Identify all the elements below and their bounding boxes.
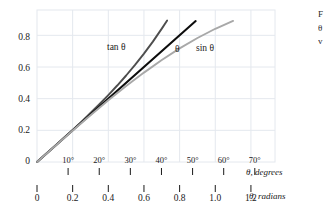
caption-line-3: v <box>318 35 331 49</box>
x-tick-label-radians-0-2: 0.2 <box>58 194 88 204</box>
x-axis-label-degrees: θ, degrees <box>246 168 283 177</box>
chart-canvas <box>0 0 331 220</box>
y-tick-label-0-4: 0.4 <box>4 95 30 105</box>
x-tick-label-degrees-50: 50° <box>179 156 207 165</box>
curve-label-sin-theta: sin θ <box>196 44 214 54</box>
x-tick-label-degrees-20: 20° <box>85 156 113 165</box>
x-tick-label-degrees-70: 70° <box>241 156 269 165</box>
y-tick-label-0-2: 0.2 <box>4 126 30 136</box>
y-tick-label-0-6: 0.6 <box>4 64 30 74</box>
x-tick-label-radians-0-4: 0.4 <box>93 194 123 204</box>
curve-label-tan-theta: tan θ <box>107 43 126 53</box>
tick-marks <box>37 168 255 192</box>
x-tick-label-degrees-60: 60° <box>210 156 238 165</box>
caption-line-2: θ <box>318 22 331 36</box>
gridlines <box>37 10 275 162</box>
caption-text: F θ v <box>318 8 331 49</box>
caption-line-1: F <box>318 8 331 22</box>
curve-label-theta: θ <box>175 45 180 55</box>
x-tick-label-degrees-10: 10° <box>54 156 82 165</box>
x-tick-label-radians-0-8: 0.8 <box>165 194 195 204</box>
x-tick-label-degrees-30: 30° <box>116 156 144 165</box>
y-tick-label-0: 0 <box>4 157 30 167</box>
x-axis-label-radians: θ, radians <box>249 192 285 201</box>
x-tick-label-degrees-40: 40° <box>147 156 175 165</box>
x-tick-label-radians-1-0: 1.0 <box>200 194 230 204</box>
y-tick-label-0-8: 0.8 <box>4 33 30 43</box>
x-tick-label-radians-0: 0 <box>22 194 52 204</box>
x-tick-label-radians-0-6: 0.6 <box>129 194 159 204</box>
figure: 0 0.2 0.4 0.6 0.8 0 0.2 0.4 0.6 0.8 1.0 … <box>0 0 331 220</box>
